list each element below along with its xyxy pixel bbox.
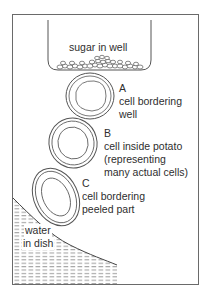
well-label: sugar in well	[69, 41, 127, 54]
sugar-granules	[57, 55, 143, 69]
cell-b-desc-line2: (representing	[104, 153, 166, 166]
cell-a-letter: A	[119, 82, 126, 95]
cell-a-desc-line2: well	[119, 108, 137, 121]
cell-b-letter: B	[104, 127, 111, 140]
water-label-line2: in dish	[22, 237, 54, 250]
cell-b-desc-line3: many actual cells)	[104, 166, 188, 179]
cell-c-letter: C	[82, 177, 90, 190]
cell-b	[43, 113, 102, 174]
cell-b-desc-line1: cell inside potato	[104, 140, 182, 153]
cell-c-desc-line1: cell bordering	[82, 190, 145, 203]
cell-a-desc-line1: cell bordering	[119, 95, 182, 108]
cell-a	[66, 73, 114, 119]
water-label-line1: water	[24, 224, 52, 237]
cell-c-desc-line2: peeled part	[82, 203, 135, 216]
